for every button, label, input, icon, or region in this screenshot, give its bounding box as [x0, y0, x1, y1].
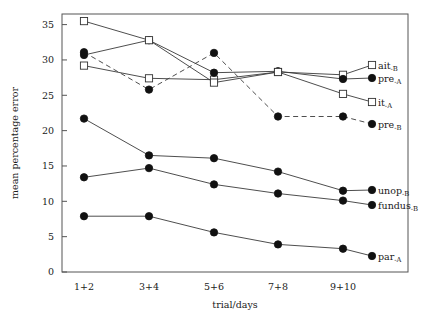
- series-label-par-A: par-A: [378, 251, 402, 265]
- chart-figure: 05101520253035 1+23+45+67+89+10 ait-Bpre…: [0, 0, 434, 317]
- data-point: [274, 168, 281, 175]
- series-label-sub: -A: [394, 256, 401, 264]
- legend-marker: [368, 98, 375, 105]
- series-fundus-B: [80, 164, 375, 208]
- series-pre-B: [80, 49, 375, 128]
- data-point: [339, 245, 346, 252]
- series-label-unop-B: unop-B: [378, 185, 409, 199]
- y-tick-label: 0: [48, 266, 54, 277]
- data-point: [339, 187, 346, 194]
- data-point: [210, 229, 217, 236]
- y-tick-label: 20: [42, 125, 54, 136]
- data-point: [274, 113, 281, 120]
- series-label-sub: -B: [411, 205, 418, 213]
- series-label-connector: [343, 78, 372, 79]
- data-point: [145, 213, 152, 220]
- data-point: [80, 62, 87, 69]
- series-label-pre-B: pre-B: [378, 119, 402, 133]
- data-point: [145, 152, 152, 159]
- x-axis-title: trial/days: [212, 299, 257, 310]
- series-label-main: par: [378, 251, 395, 262]
- series-label-connector: [343, 190, 372, 191]
- data-point: [210, 181, 217, 188]
- data-point: [80, 174, 87, 181]
- series-label-connector: [343, 65, 372, 75]
- series-label-layer: ait-Bpre-Ait-Apre-Bunop-Bfundus-Bpar-A: [378, 60, 418, 265]
- x-tick-label: 9+10: [330, 281, 356, 292]
- data-point: [145, 164, 152, 171]
- data-point: [339, 90, 346, 97]
- series-label-connector: [343, 249, 372, 256]
- series-label-sub: -A: [385, 102, 392, 110]
- series-unop-B: [80, 115, 375, 194]
- legend-marker: [368, 74, 375, 81]
- y-tick-label: 30: [42, 54, 54, 65]
- legend-marker: [368, 120, 375, 127]
- data-point: [274, 190, 281, 197]
- y-tick-label: 10: [42, 196, 54, 207]
- data-point: [210, 155, 217, 162]
- x-tick-label: 3+4: [139, 281, 159, 292]
- data-point: [80, 213, 87, 220]
- x-tick-label: 5+6: [204, 281, 224, 292]
- data-point: [80, 49, 87, 56]
- series-label-sub: -B: [394, 124, 401, 132]
- series-label-main: pre: [378, 73, 395, 84]
- data-point: [145, 86, 152, 93]
- data-point: [80, 18, 87, 25]
- series-label-sub: -A: [394, 78, 401, 86]
- data-point: [80, 115, 87, 122]
- data-point: [145, 75, 152, 82]
- y-axis-title: mean percentage error: [9, 87, 20, 199]
- series-label-main: ait: [378, 60, 391, 71]
- y-tick-label: 35: [42, 19, 54, 30]
- data-point: [339, 197, 346, 204]
- data-point: [210, 79, 217, 86]
- plot-frame: [62, 14, 408, 272]
- data-point: [274, 68, 281, 75]
- data-point: [210, 69, 217, 76]
- x-tick-label: 7+8: [268, 281, 288, 292]
- series-par-A: [80, 213, 375, 260]
- series-layer: [80, 18, 375, 260]
- y-tick-label: 5: [48, 231, 54, 242]
- series-label-connector: [343, 117, 372, 125]
- data-point: [145, 37, 152, 44]
- series-label-main: fundus: [378, 200, 411, 211]
- data-point: [339, 75, 346, 82]
- series-label-sub: -B: [402, 190, 409, 198]
- series-label-fundus-B: fundus-B: [378, 200, 418, 214]
- series-label-connector: [343, 94, 372, 102]
- series-label-main: unop: [378, 185, 402, 196]
- legend-marker: [368, 186, 375, 193]
- y-tick-label: 25: [42, 90, 54, 101]
- series-label-ait-B: ait-B: [378, 60, 398, 74]
- x-tick-label: 1+2: [74, 281, 94, 292]
- series-label-it-A: it-A: [378, 97, 392, 111]
- data-point: [339, 113, 346, 120]
- data-point: [210, 49, 217, 56]
- series-it-A: [80, 18, 375, 106]
- y-tick-label: 15: [42, 160, 54, 171]
- legend-marker: [368, 201, 375, 208]
- series-label-connector: [343, 201, 372, 205]
- data-point: [274, 241, 281, 248]
- series-label-main: pre: [378, 119, 395, 130]
- x-axis-tick-labels: 1+23+45+67+89+10: [74, 281, 356, 292]
- legend-marker: [368, 61, 375, 68]
- legend-marker: [368, 252, 375, 259]
- series-label-pre-A: pre-A: [378, 73, 402, 87]
- y-axis-ticks: 05101520253035: [42, 19, 67, 277]
- chart-svg: 05101520253035 1+23+45+67+89+10 ait-Bpre…: [0, 0, 434, 317]
